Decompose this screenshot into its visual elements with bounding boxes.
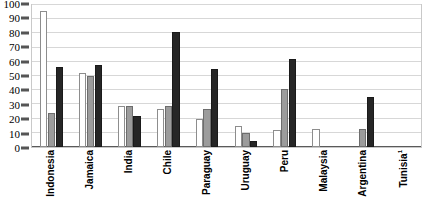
- bar: [40, 11, 47, 147]
- x-axis-label-slot: Jamaica: [70, 149, 109, 202]
- x-axis-label-slot: Peru: [266, 149, 305, 202]
- x-axis-tick-label: Jamaica: [85, 150, 95, 189]
- bar: [95, 65, 102, 147]
- x-axis-tick-label: Argentina: [358, 150, 368, 197]
- bar: [126, 106, 133, 147]
- bar: [289, 59, 296, 147]
- y-axis-tick-mark: [21, 3, 29, 6]
- y-axis-tick-mark: [21, 75, 29, 78]
- bar: [273, 130, 280, 147]
- y-axis-tick-label: 50: [9, 71, 20, 82]
- bar-group: [227, 5, 266, 147]
- x-axis-tick-label: Tunisia1: [396, 150, 409, 188]
- bar-group: [382, 5, 421, 147]
- x-axis-tick-label: Uruguay: [241, 150, 251, 191]
- x-axis-tick-label: Peru: [280, 150, 290, 172]
- x-axis-label-slot: Tunisia1: [383, 149, 422, 202]
- x-axis-tick-label: Indonesia: [46, 150, 56, 197]
- x-axis-label-slot: Argentina: [344, 149, 383, 202]
- y-axis-tick-mark: [21, 132, 29, 135]
- y-axis-tick-mark: [21, 89, 29, 92]
- y-axis-tick-label: 30: [9, 99, 20, 110]
- x-axis-label-slot: Malaysia: [305, 149, 344, 202]
- x-axis-label-slot: Paraguay: [187, 149, 226, 202]
- bar: [312, 129, 319, 147]
- bar: [118, 106, 125, 147]
- y-axis-tick-mark: [21, 17, 29, 20]
- y-axis-tick-label: 60: [9, 56, 20, 67]
- bar: [281, 89, 288, 147]
- bar-chart: 0102030405060708090100 IndonesiaJamaicaI…: [0, 0, 423, 202]
- y-axis-tick-label: 40: [9, 85, 20, 96]
- bar: [165, 106, 172, 147]
- bar: [250, 141, 257, 147]
- y-axis-tick-mark: [21, 147, 29, 150]
- bar-group: [110, 5, 149, 147]
- bar-series-container: [32, 5, 421, 147]
- x-axis-label-slot: India: [109, 149, 148, 202]
- y-axis-tick-label: 90: [9, 13, 20, 24]
- x-axis-tick-label: Malaysia: [319, 150, 329, 192]
- bar-group: [343, 5, 382, 147]
- x-axis-tick-label: Paraguay: [202, 150, 212, 195]
- bar-group: [265, 5, 304, 147]
- y-axis-tick-label: 70: [9, 42, 20, 53]
- bar: [87, 76, 94, 147]
- y-axis-tick-label: 80: [9, 27, 20, 38]
- bar: [367, 97, 374, 147]
- bar: [235, 126, 242, 147]
- bar: [242, 133, 249, 147]
- bar: [172, 32, 179, 147]
- y-axis-tick-mark: [21, 46, 29, 49]
- y-axis: 0102030405060708090100: [0, 0, 30, 152]
- bar-group: [304, 5, 343, 147]
- footnote-marker: 1: [398, 150, 404, 153]
- bar: [157, 109, 164, 147]
- bar: [211, 69, 218, 147]
- bar-group: [188, 5, 227, 147]
- bar-group: [71, 5, 110, 147]
- bar: [56, 67, 63, 147]
- y-axis-tick-label: 0: [15, 143, 21, 154]
- x-axis-labels: IndonesiaJamaicaIndiaChileParaguayUrugua…: [31, 149, 422, 202]
- y-axis-tick-mark: [21, 118, 29, 121]
- y-axis-tick-label: 100: [4, 0, 21, 10]
- plot-area: [31, 4, 422, 148]
- bar: [196, 119, 203, 147]
- y-axis-tick-label: 10: [9, 128, 20, 139]
- x-axis-label-slot: Indonesia: [31, 149, 70, 202]
- x-axis-tick-label: Chile: [163, 150, 173, 174]
- y-axis-tick-label: 20: [9, 114, 20, 125]
- x-axis-tick-label: India: [124, 150, 134, 173]
- bar-group: [149, 5, 188, 147]
- bar: [203, 109, 210, 147]
- y-axis-tick-mark: [21, 60, 29, 63]
- bar: [79, 73, 86, 147]
- bar: [133, 116, 140, 147]
- bar: [359, 129, 366, 147]
- bar-group: [32, 5, 71, 147]
- x-axis-label-slot: Uruguay: [227, 149, 266, 202]
- y-axis-tick-mark: [21, 31, 29, 34]
- x-axis-label-slot: Chile: [148, 149, 187, 202]
- bar: [48, 113, 55, 147]
- y-axis-tick-mark: [21, 103, 29, 106]
